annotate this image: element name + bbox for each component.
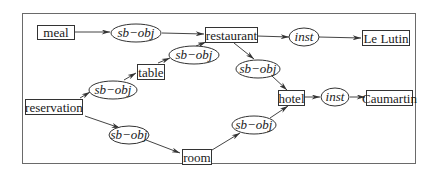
node-meal: meal bbox=[38, 25, 75, 40]
edge-inst1-to-lelutin bbox=[319, 37, 361, 38]
edge-sbobj4-to-hotel bbox=[272, 76, 287, 90]
relation-inst-1-label: inst bbox=[295, 29, 314, 44]
node-table-label: table bbox=[138, 65, 163, 80]
edge-table-to-sbobj2 bbox=[158, 58, 170, 63]
relation-sbobj-2-label: sb−obj bbox=[176, 47, 213, 62]
edge-room-to-sbobj6 bbox=[212, 133, 240, 150]
relation-sbobj-1: sb−obj bbox=[111, 24, 161, 42]
relation-sbobj-4-label: sb−obj bbox=[240, 61, 277, 76]
node-caumartin-label: Caumartin bbox=[362, 91, 417, 106]
relation-sbobj-3: sb−obj bbox=[89, 81, 137, 99]
relation-sbobj-5: sb−obj bbox=[109, 126, 149, 144]
relation-inst-2-label: inst bbox=[326, 89, 345, 104]
node-restaurant-label: restaurant bbox=[206, 28, 258, 43]
node-reservation: reservation bbox=[25, 100, 83, 115]
edge-restaurant-to-inst1 bbox=[257, 36, 289, 37]
node-hotel-label: hotel bbox=[279, 91, 305, 106]
relation-inst-1: inst bbox=[289, 28, 319, 46]
edge-restaurant-to-sbobj4 bbox=[234, 43, 254, 59]
relation-sbobj-1-label: sb−obj bbox=[118, 25, 155, 40]
node-table: table bbox=[138, 65, 165, 80]
node-hotel: hotel bbox=[279, 91, 305, 106]
node-meal-label: meal bbox=[43, 25, 69, 40]
edge-sbobj2-to-restaurant bbox=[196, 42, 206, 46]
conceptual-graph-diagram: meal restaurant Le Lutin table reservati… bbox=[0, 0, 441, 186]
node-caumartin: Caumartin bbox=[362, 91, 417, 106]
edge-reservation-to-sbobj3 bbox=[80, 92, 90, 98]
relation-sbobj-4: sb−obj bbox=[236, 60, 280, 78]
relation-sbobj-3-label: sb−obj bbox=[95, 82, 132, 97]
relation-sbobj-2: sb−obj bbox=[169, 46, 219, 64]
edge-sbobj5-to-room bbox=[146, 140, 180, 153]
relation-sbobj-5-label: sb−obj bbox=[111, 127, 148, 142]
edge-sbobj1-to-restaurant bbox=[162, 33, 204, 34]
node-le-lutin: Le Lutin bbox=[363, 31, 410, 46]
node-reservation-label: reservation bbox=[25, 100, 83, 115]
edge-sbobj3-to-table bbox=[124, 73, 136, 80]
relation-sbobj-6: sb−obj bbox=[232, 116, 276, 134]
node-le-lutin-label: Le Lutin bbox=[363, 31, 409, 46]
relation-inst-2: inst bbox=[321, 88, 349, 106]
edge-sbobj6-to-hotel bbox=[270, 106, 288, 118]
relation-sbobj-6-label: sb−obj bbox=[236, 117, 273, 132]
node-restaurant: restaurant bbox=[206, 28, 258, 43]
node-room: room bbox=[183, 150, 212, 165]
node-room-label: room bbox=[183, 150, 210, 165]
